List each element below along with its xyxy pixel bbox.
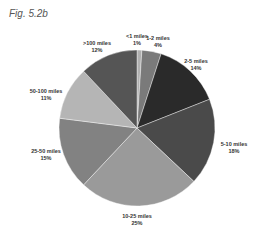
slice-label: 50-100 miles11%	[30, 88, 63, 101]
slice-percent: 12%	[83, 47, 111, 54]
slice-percent: 11%	[30, 95, 63, 102]
slice-category: 1-2 miles	[146, 35, 170, 42]
slice-label: 5-10 miles18%	[221, 141, 248, 154]
slice-percent: 1%	[126, 40, 148, 47]
slice-label: 2-5 miles14%	[184, 58, 208, 71]
slice-category: 10-25 miles	[122, 213, 152, 220]
slice-percent: 14%	[184, 65, 208, 72]
slice-percent: 15%	[31, 155, 61, 162]
slice-label: <1 miles1%	[126, 33, 148, 46]
slice-label: 25-50 miles15%	[31, 148, 61, 161]
slice-label: >100 miles12%	[83, 40, 111, 53]
slice-label: 1-2 miles4%	[146, 35, 170, 48]
slice-category: 5-10 miles	[221, 141, 248, 148]
slice-category: <1 miles	[126, 33, 148, 40]
slice-category: >100 miles	[83, 40, 111, 47]
slice-label: 10-25 miles25%	[122, 213, 152, 226]
slice-percent: 4%	[146, 42, 170, 49]
slice-category: 2-5 miles	[184, 58, 208, 65]
slice-percent: 25%	[122, 220, 152, 227]
slice-category: 25-50 miles	[31, 148, 61, 155]
slice-category: 50-100 miles	[30, 88, 63, 95]
slice-percent: 18%	[221, 148, 248, 155]
